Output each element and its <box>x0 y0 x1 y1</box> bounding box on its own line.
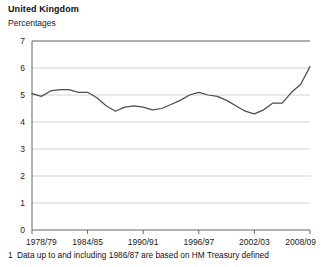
axis-lines <box>32 41 310 230</box>
y-tick-label: 6 <box>20 63 25 73</box>
y-tick-label: 1 <box>20 198 25 208</box>
footnote-marker: 1 <box>8 250 17 261</box>
x-tick-label: 1996/97 <box>183 237 214 245</box>
y-tick-label: 7 <box>20 36 25 46</box>
data-series-line <box>32 67 310 114</box>
footnote-text: Data up to and including 1986/87 are bas… <box>17 250 269 260</box>
x-axis-ticks: 1978/791984/851990/911996/972002/032008/… <box>26 230 316 245</box>
x-tick-label: 2002/03 <box>239 237 270 245</box>
x-tick-label: 1990/91 <box>128 237 159 245</box>
y-tick-label: 5 <box>20 90 25 100</box>
x-tick-label: 1978/79 <box>26 237 57 245</box>
line-chart: 01234567 1978/791984/851990/911996/97200… <box>0 30 329 245</box>
y-tick-label: 4 <box>20 117 25 127</box>
y-axis-ticks: 01234567 <box>20 36 25 235</box>
chart-plot-area: 01234567 1978/791984/851990/911996/97200… <box>0 30 329 245</box>
x-tick-label: 2008/09 <box>285 237 316 245</box>
y-tick-label: 0 <box>20 225 25 235</box>
x-tick-label: 1984/85 <box>72 237 103 245</box>
chart-header: United Kingdom Percentages <box>8 3 308 29</box>
y-tick-label: 2 <box>20 171 25 181</box>
chart-footnote: 1Data up to and including 1986/87 are ba… <box>8 250 326 261</box>
y-tick-label: 3 <box>20 144 25 154</box>
page-title: United Kingdom <box>8 3 308 15</box>
chart-subtitle: Percentages <box>8 17 308 29</box>
gridlines <box>32 41 310 203</box>
